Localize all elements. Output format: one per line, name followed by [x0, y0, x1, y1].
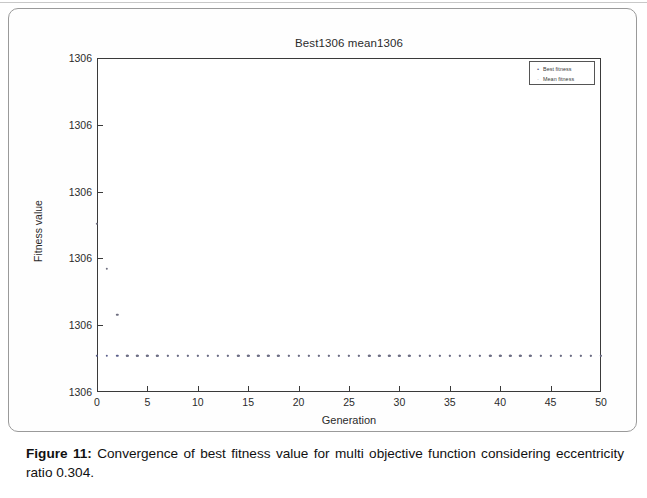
legend-item-label: Best fitness — [543, 66, 571, 72]
y-axis-tick-label: 1306 — [50, 252, 92, 264]
x-axis-tick-mark — [248, 386, 249, 392]
x-axis-tick-label: 20 — [279, 396, 319, 408]
x-axis-tick-mark — [299, 386, 300, 392]
y-axis-title: Fitness value — [32, 171, 44, 291]
x-axis-tick-mark — [551, 386, 552, 392]
x-axis-tick-mark — [349, 386, 350, 392]
figure-caption-label: Figure 11: — [26, 446, 92, 461]
y-axis-tick-mark — [97, 258, 103, 259]
x-axis-tick-mark — [450, 386, 451, 392]
axes-frame — [97, 58, 601, 392]
x-axis-tick-label: 40 — [480, 396, 520, 408]
chart-plot-area: Best1306 mean1306 1306130613061306130613… — [0, 0, 647, 432]
x-axis-tick-label: 15 — [228, 396, 268, 408]
chart-legend: •Best fitness·Mean fitness — [529, 61, 595, 85]
x-axis-tick-mark — [500, 386, 501, 392]
x-axis-tick-label: 0 — [77, 396, 117, 408]
y-axis-tick-label: 1306 — [50, 186, 92, 198]
x-axis-title: Generation — [97, 414, 601, 426]
x-axis-tick-label: 30 — [379, 396, 419, 408]
y-axis-tick-mark — [97, 325, 103, 326]
x-axis-tick-mark — [147, 386, 148, 392]
legend-marker-icon: · — [533, 76, 543, 82]
legend-marker-icon: • — [533, 66, 543, 72]
y-axis-tick-mark — [97, 125, 103, 126]
x-axis-tick-label: 5 — [127, 396, 167, 408]
y-axis-tick-mark — [97, 192, 103, 193]
chart-title: Best1306 mean1306 — [97, 37, 601, 49]
x-axis-tick-label: 10 — [178, 396, 218, 408]
legend-item: •Best fitness — [533, 64, 591, 73]
x-axis-tick-label: 25 — [329, 396, 369, 408]
y-axis-tick-label: 1306 — [50, 319, 92, 331]
y-axis-tick-label: 1306 — [50, 52, 92, 64]
y-axis-tick-labels: 130613061306130613061306 — [46, 0, 92, 432]
x-axis-tick-label: 50 — [581, 396, 621, 408]
legend-item-label: Mean fitness — [543, 76, 574, 82]
figure-caption: Figure 11: Convergence of best fitness v… — [26, 444, 624, 482]
x-axis-tick-mark — [198, 386, 199, 392]
y-axis-tick-label: 1306 — [50, 119, 92, 131]
x-axis-tick-label: 35 — [430, 396, 470, 408]
figure-caption-text: Convergence of best fitness value for mu… — [26, 446, 624, 480]
x-axis-tick-mark — [399, 386, 400, 392]
x-axis-tick-label: 45 — [531, 396, 571, 408]
legend-item: ·Mean fitness — [533, 74, 591, 83]
